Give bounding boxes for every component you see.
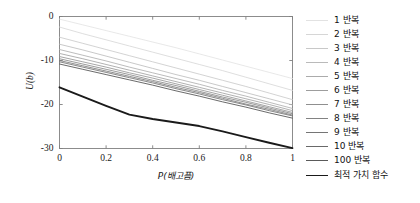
series-line-9 — [60, 62, 293, 116]
legend-line-swatch — [306, 20, 328, 21]
x-tick-label: 1 — [278, 153, 308, 163]
legend-label: 3 반복 — [334, 44, 359, 53]
x-tick-label: 0 — [45, 153, 75, 163]
legend-label: 8 반복 — [334, 114, 359, 123]
x-tick-label: 0.8 — [231, 153, 261, 163]
legend-item: 6 반복 — [306, 83, 418, 97]
axis-frame — [60, 17, 293, 149]
legend-line-swatch — [306, 146, 328, 147]
series-line-1 — [60, 27, 293, 90]
legend-label: 4 반복 — [334, 58, 359, 67]
legend-label: 최적 가치 함수 — [334, 171, 388, 180]
legend-line-swatch — [306, 76, 328, 77]
legend-line-swatch — [306, 48, 328, 49]
series-line-6 — [60, 57, 293, 113]
legend-item: 10 반복 — [306, 140, 418, 154]
legend-line-swatch — [306, 90, 328, 91]
x-tick-label: 0.2 — [91, 153, 121, 163]
y-tick-label: -10 — [22, 55, 54, 65]
legend-item: 7 반복 — [306, 98, 418, 112]
legend-line-swatch — [306, 175, 328, 176]
legend-item: 2 반복 — [306, 27, 418, 41]
legend-line-swatch — [306, 62, 328, 63]
x-axis-label: P(배고픔) — [131, 169, 221, 182]
y-tick-label: -30 — [22, 143, 54, 153]
series-line-10 — [60, 64, 293, 118]
legend-item: 4 반복 — [306, 55, 418, 69]
legend-label: 6 반복 — [334, 86, 359, 95]
legend-line-swatch — [306, 132, 328, 133]
legend-label: 10 반복 — [334, 142, 364, 151]
legend-label: 5 반복 — [334, 72, 359, 81]
legend-item: 3 반복 — [306, 41, 418, 55]
legend-line-swatch — [306, 34, 328, 35]
legend-item: 8 반복 — [306, 112, 418, 126]
legend-label: 2 반복 — [334, 30, 359, 39]
legend-item: 100 반복 — [306, 154, 418, 168]
legend-line-swatch — [306, 118, 328, 119]
series-line-7 — [60, 59, 293, 114]
legend-label: 100 반복 — [334, 156, 370, 165]
legend-label: 9 반복 — [334, 128, 359, 137]
x-tick-label: 0.6 — [184, 153, 214, 163]
y-tick-label: -20 — [22, 99, 54, 109]
legend-line-swatch — [306, 160, 328, 161]
value-function-chart: U(b) P(배고픔) 0-10-20-30 00.20.40.60.81 1 … — [0, 0, 420, 203]
legend-line-swatch — [306, 104, 328, 105]
series-line-3 — [60, 44, 293, 105]
series-line-8 — [60, 61, 293, 116]
legend-label: 7 반복 — [334, 100, 359, 109]
legend-item: 1 반복 — [306, 13, 418, 27]
legend-item: 최적 가치 함수 — [306, 168, 418, 182]
series-line-11 — [60, 87, 293, 148]
legend-item: 9 반복 — [306, 126, 418, 140]
legend-item: 5 반복 — [306, 69, 418, 83]
y-tick-label: 0 — [22, 11, 54, 21]
legend-label: 1 반복 — [334, 16, 359, 25]
chart-legend: 1 반복2 반복3 반복4 반복5 반복6 반복7 반복8 반복9 반복10 반… — [306, 13, 418, 182]
x-tick-label: 0.4 — [138, 153, 168, 163]
